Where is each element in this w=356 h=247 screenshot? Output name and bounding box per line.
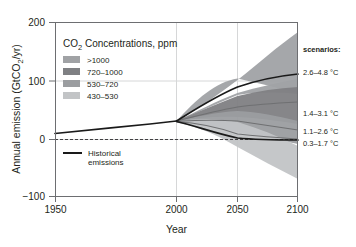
xtick-label-1950: 1950	[44, 204, 67, 215]
xtick-label-2100: 2100	[286, 204, 309, 215]
emissions-scenarios-chart: 200 100 0 −100 1950 2000 2050 2100 Year …	[0, 0, 356, 247]
legend-label-gt1000: >1000	[87, 56, 110, 65]
ytick-label-0: 0	[39, 134, 45, 145]
scenario-label-1-4-3-1: 1.4–3.1 °C	[303, 109, 339, 118]
legend-swatch-530-720	[63, 80, 80, 87]
scenario-labels: scenarios: 2.6–4.8 °C 1.4–3.1 °C 1.1–2.6…	[303, 45, 341, 148]
y-axis-title-main: Annual emission (GtCO	[10, 64, 22, 174]
scenario-label-0-3-1-7: 0.3–1.7 °C	[303, 139, 339, 148]
scenarios-header: scenarios:	[303, 45, 341, 54]
legend-label-720-1000: 720–1000	[87, 68, 123, 77]
legend-label-historical-line2: emissions	[88, 158, 124, 167]
legend-swatch-gt1000	[63, 56, 80, 63]
legend-label-historical-line1: Historical	[88, 149, 121, 158]
xtick-label-2000: 2000	[165, 204, 188, 215]
legend-swatch-720-1000	[63, 68, 80, 75]
y-tick-labels: 200 100 0 −100	[22, 17, 45, 202]
legend-label-430-530: 430–530	[87, 92, 119, 101]
x-axis-title: Year	[166, 223, 188, 235]
x-tick-labels: 1950 2000 2050 2100	[44, 204, 309, 215]
ytick-label-100: 100	[28, 76, 45, 87]
y-axis-title-tail: /yr)	[10, 44, 22, 59]
y-axis-title: Annual emission (GtCO2/yr)	[10, 44, 25, 174]
ytick-label-minus100: −100	[22, 191, 45, 202]
chart-figure: 200 100 0 −100 1950 2000 2050 2100 Year …	[0, 0, 356, 247]
legend-title-tail: Concentrations, ppm	[82, 38, 177, 49]
ytick-label-200: 200	[28, 17, 45, 28]
legend-label-530-720: 530–720	[87, 80, 119, 89]
scenario-label-1-1-2-6: 1.1–2.6 °C	[303, 127, 339, 136]
scenario-label-2-6-4-8: 2.6–4.8 °C	[303, 68, 339, 77]
legend-title-main: CO	[63, 38, 78, 49]
svg-text:Annual emission (GtCO2/yr): Annual emission (GtCO2/yr)	[10, 44, 25, 174]
legend-swatch-430-530	[63, 92, 80, 99]
xtick-label-2050: 2050	[226, 204, 249, 215]
